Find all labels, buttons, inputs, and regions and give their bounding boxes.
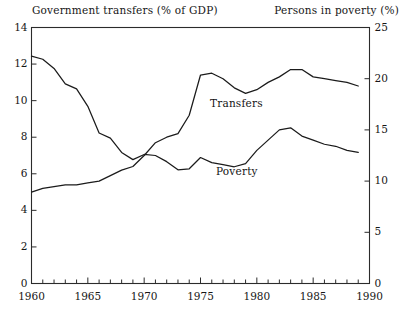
tick-label-y-right-0: 0 [375,277,382,289]
tick-label-y-left-6: 6 [4,167,28,179]
tick-label-x-1990: 1990 [350,290,390,302]
chart-figure: Government transfers (% of GDP) Persons … [0,0,411,310]
tick-label-y-right-20: 20 [375,72,388,84]
tick-label-y-left-0: 0 [4,277,28,289]
tick-label-y-left-10: 10 [4,94,28,106]
tick-label-x-1980: 1980 [237,290,277,302]
tick-label-y-left-14: 14 [4,21,28,33]
tick-label-y-left-2: 2 [4,240,28,252]
tick-label-x-1975: 1975 [181,290,221,302]
tick-label-x-1960: 1960 [12,290,52,302]
tick-label-y-left-8: 8 [4,130,28,142]
tick-label-y-left-12: 12 [4,57,28,69]
series-label-poverty: Poverty [216,165,258,177]
data-lines [32,56,359,192]
tick-label-x-1965: 1965 [68,290,108,302]
tick-label-y-right-5: 5 [375,225,382,237]
plot-area [0,0,411,310]
axis-ticks [32,28,370,284]
tick-label-y-right-10: 10 [375,174,388,186]
tick-label-x-1970: 1970 [124,290,164,302]
right-axis-title: Persons in poverty (%) [274,4,399,16]
series-line-transfers [32,70,359,193]
tick-label-y-right-25: 25 [375,21,388,33]
series-label-transfers: Transfers [210,97,263,109]
tick-label-y-right-15: 15 [375,123,388,135]
series-line-poverty [32,56,359,170]
tick-label-y-left-4: 4 [4,203,28,215]
left-axis-title: Government transfers (% of GDP) [32,4,218,16]
tick-label-x-1985: 1985 [293,290,333,302]
plot-frame [32,28,370,284]
